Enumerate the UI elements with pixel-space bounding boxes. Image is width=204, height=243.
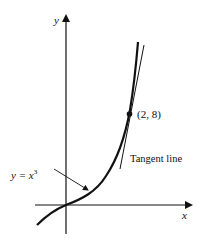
x-axis-label: x (181, 209, 187, 221)
y-axis-label: y (53, 14, 59, 26)
tangent-diagram: y x (2, 8) Tangent line y = x3 (0, 0, 204, 243)
curve-equation-exponent: 3 (34, 168, 38, 176)
tangent-line-label: Tangent line (130, 153, 182, 164)
curve-equation-base: y = x (10, 169, 34, 181)
curve-equation-label: y = x3 (10, 168, 38, 181)
cubic-curve (37, 42, 138, 225)
tangent-line (120, 45, 144, 169)
curve-label-pointer (54, 169, 88, 190)
tangent-point (127, 111, 133, 117)
point-label: (2, 8) (137, 108, 161, 121)
diagram-canvas: y x (2, 8) Tangent line y = x3 (0, 0, 204, 243)
